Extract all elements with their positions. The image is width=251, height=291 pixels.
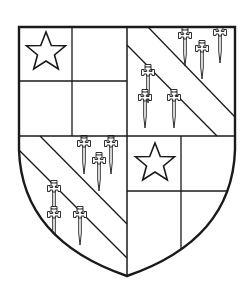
shield-illustration: Heraldic shield, quarterly: [0, 0, 251, 291]
